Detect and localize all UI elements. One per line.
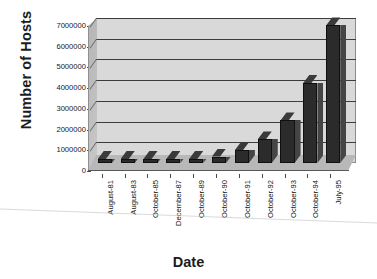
hosts-bar-chart: Number of Hosts 010000002000000300000040… <box>0 0 377 279</box>
x-tick-mark <box>147 174 148 178</box>
x-axis-tick-labels: August-81August-83October-85December-87O… <box>0 174 377 252</box>
x-tick-mark <box>193 174 194 178</box>
bar-top-face <box>326 17 340 25</box>
bar-side-face <box>180 159 186 163</box>
bar-front-face <box>166 159 180 163</box>
bar-top-face <box>258 131 272 139</box>
x-tick-label: October-94 <box>311 180 320 218</box>
y-tick-label: 5000000 <box>28 63 86 71</box>
x-tick-label: August-81 <box>106 180 115 215</box>
bar-top-face <box>212 149 226 157</box>
bar-side-face <box>317 83 323 163</box>
bar-front-face <box>258 139 272 163</box>
bar <box>121 159 135 163</box>
x-tick-label: December-87 <box>174 180 183 226</box>
bar-side-face <box>295 120 301 163</box>
y-tick-label: 1000000 <box>28 146 86 154</box>
plot-area <box>88 18 356 171</box>
y-tick-label: 7000000 <box>28 22 86 30</box>
bar-top-face <box>280 112 294 120</box>
bar-side-face <box>158 159 164 163</box>
bar <box>326 25 340 163</box>
bar <box>98 159 112 163</box>
x-tick-mark <box>330 174 331 178</box>
y-tick-mark <box>87 171 91 172</box>
bar <box>143 159 157 163</box>
bar-front-face <box>235 150 249 163</box>
bar <box>303 83 317 163</box>
bar-front-face <box>143 159 157 163</box>
bar <box>235 150 249 163</box>
y-tick-label: 3000000 <box>28 105 86 113</box>
x-tick-label: October-92 <box>266 180 275 218</box>
bar-front-face <box>303 83 317 163</box>
bar-front-face <box>212 157 226 163</box>
bar-front-face <box>121 159 135 163</box>
x-tick-label: October-89 <box>197 180 206 218</box>
x-tick-mark <box>307 174 308 178</box>
y-tick-label: 2000000 <box>28 126 86 134</box>
x-tick-mark <box>285 174 286 178</box>
bar-top-face <box>189 151 203 159</box>
bar-top-face <box>121 151 135 159</box>
bar <box>212 157 226 163</box>
bar-side-face <box>203 159 209 163</box>
bar-side-face <box>226 157 232 163</box>
bar-top-face <box>235 142 249 150</box>
bar-side-face <box>340 25 346 163</box>
x-tick-label: October-91 <box>243 180 252 218</box>
bar-top-face <box>98 151 112 159</box>
bar-front-face <box>189 159 203 163</box>
bar-side-face <box>135 159 141 163</box>
bar-series <box>88 18 356 171</box>
y-axis-tick-labels: 0100000020000003000000400000050000006000… <box>28 0 86 200</box>
x-tick-label: August-83 <box>129 180 138 215</box>
x-tick-mark <box>262 174 263 178</box>
bar <box>166 159 180 163</box>
x-axis-title: Date <box>0 254 377 270</box>
x-tick-mark <box>239 174 240 178</box>
bar-top-face <box>166 151 180 159</box>
bar-side-face <box>272 139 278 163</box>
bar <box>258 139 272 163</box>
bar-side-face <box>249 150 255 163</box>
bar <box>189 159 203 163</box>
x-tick-mark <box>216 174 217 178</box>
bar-side-face <box>112 159 118 163</box>
y-tick-label: 6000000 <box>28 43 86 51</box>
bar-front-face <box>326 25 340 163</box>
bar-front-face <box>280 120 294 163</box>
bar-top-face <box>143 151 157 159</box>
x-tick-mark <box>102 174 103 178</box>
bar-top-face <box>303 75 317 83</box>
x-tick-label: October-85 <box>151 180 160 218</box>
x-tick-mark <box>125 174 126 178</box>
bar <box>280 120 294 163</box>
x-tick-label: July-95 <box>334 180 343 204</box>
x-tick-mark <box>170 174 171 178</box>
bar-front-face <box>98 159 112 163</box>
y-tick-label: 4000000 <box>28 84 86 92</box>
x-tick-label: October-90 <box>220 180 229 218</box>
x-tick-label: October-93 <box>289 180 298 218</box>
